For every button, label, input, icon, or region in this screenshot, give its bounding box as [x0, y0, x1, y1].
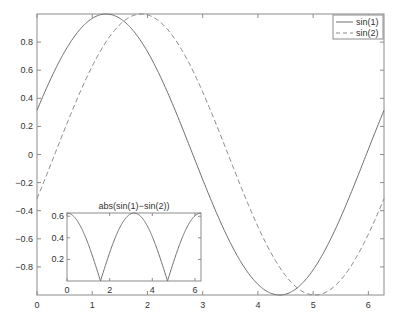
- legend: sin(1) sin(2): [333, 15, 383, 39]
- x-tick-label: 6: [366, 300, 371, 310]
- y-tick-label: −0.6: [15, 234, 33, 244]
- y-tick-label: −0.4: [15, 206, 33, 216]
- x-tick-label: 4: [255, 300, 260, 310]
- inset-plot-area: [67, 213, 201, 281]
- x-tick-label: 5: [311, 300, 316, 310]
- y-tick-label: 0.6: [20, 65, 33, 75]
- y-tick-label: −0.2: [15, 178, 33, 188]
- x-tick-label: 0: [34, 300, 39, 310]
- legend-label-sin2: sin(2): [356, 28, 379, 38]
- inset-axes: abs(sin(1)−sin(2)) 0246 0.20.40.6: [51, 201, 201, 295]
- legend-label-sin1: sin(1): [356, 17, 379, 27]
- inset-y-tick-label: 0.4: [51, 233, 64, 243]
- y-tick-label: 0.4: [20, 93, 33, 103]
- x-tick-label: 3: [200, 300, 205, 310]
- x-tick-label: 2: [145, 300, 150, 310]
- inset-x-tick-label: 6: [192, 285, 197, 295]
- inset-y-tick-label: 0.6: [51, 211, 64, 221]
- x-tick-label: 1: [90, 300, 95, 310]
- inset-x-tick-label: 2: [107, 285, 112, 295]
- y-tick-label: 0.2: [20, 121, 33, 131]
- inset-y-tick-label: 0.2: [51, 254, 64, 264]
- inset-x-tick-label: 4: [150, 285, 155, 295]
- figure: 0123456 −0.8−0.6−0.4−0.200.20.40.60.8 si…: [0, 0, 401, 324]
- y-tick-label: 0.8: [20, 37, 33, 47]
- y-tick-label: 0: [28, 150, 33, 160]
- inset-x-tick-label: 0: [64, 285, 69, 295]
- inset-title: abs(sin(1)−sin(2)): [99, 201, 170, 211]
- y-tick-label: −0.8: [15, 262, 33, 272]
